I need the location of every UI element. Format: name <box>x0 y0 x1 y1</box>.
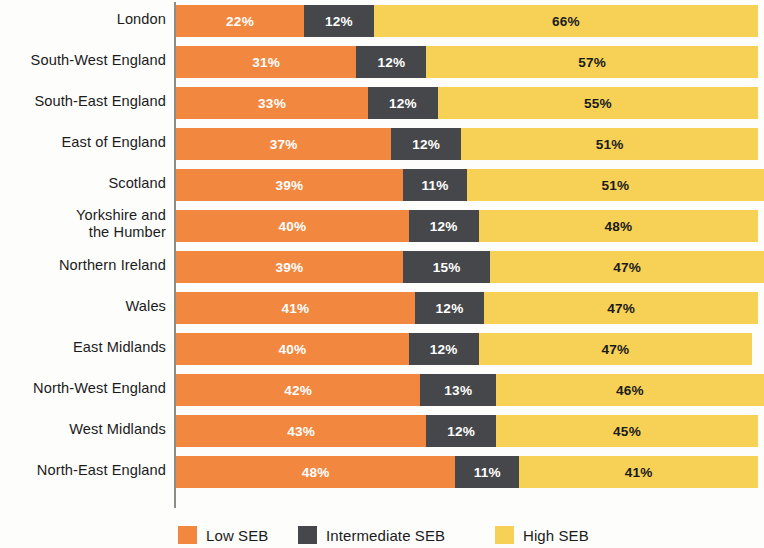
segment-value-label: 48% <box>302 465 330 480</box>
legend-item-low[interactable]: Low SEB <box>178 524 268 546</box>
bar-segment-low: 39% <box>176 251 403 283</box>
stacked-bar: 41%12%47% <box>176 292 758 324</box>
segment-value-label: 11% <box>421 178 448 193</box>
stacked-bar: 31%12%57% <box>176 46 758 78</box>
bar-segment-mid: 12% <box>304 5 374 37</box>
segment-value-label: 47% <box>607 301 635 316</box>
bar-segment-mid: 15% <box>403 251 490 283</box>
bar-segment-low: 40% <box>176 333 409 365</box>
segment-value-label: 13% <box>444 383 472 398</box>
segment-value-label: 39% <box>276 260 304 275</box>
bar-segment-low: 40% <box>176 210 409 242</box>
segment-value-label: 37% <box>270 137 298 152</box>
legend-swatch-icon <box>298 526 317 544</box>
segment-value-label: 41% <box>625 465 653 480</box>
segment-value-label: 43% <box>287 424 315 439</box>
bar-segment-high: 41% <box>519 456 758 488</box>
segment-value-label: 12% <box>430 342 458 357</box>
stacked-bar: 40%12%48% <box>176 210 758 242</box>
legend-swatch-icon <box>495 526 514 544</box>
segment-value-label: 31% <box>252 55 280 70</box>
legend-item-mid[interactable]: Intermediate SEB <box>298 524 445 546</box>
bar-row: Northern Ireland39%15%47% <box>0 251 758 283</box>
bar-segment-high: 66% <box>374 5 758 37</box>
category-label: London <box>0 11 166 28</box>
stacked-bar: 33%12%55% <box>176 87 758 119</box>
bar-row: North-West England42%13%46% <box>0 374 758 406</box>
category-label: East of England <box>0 134 166 151</box>
category-label: Scotland <box>0 175 166 192</box>
legend-label: High SEB <box>523 527 589 544</box>
segment-value-label: 47% <box>613 260 641 275</box>
legend-label: Low SEB <box>206 527 268 544</box>
segment-value-label: 22% <box>226 14 254 29</box>
bar-segment-mid: 12% <box>426 415 496 447</box>
segment-value-label: 66% <box>552 14 580 29</box>
segment-value-label: 12% <box>447 424 475 439</box>
segment-value-label: 12% <box>412 137 440 152</box>
segment-value-label: 57% <box>578 55 606 70</box>
bar-segment-low: 33% <box>176 87 368 119</box>
segment-value-label: 46% <box>616 383 644 398</box>
category-label: Yorkshire and the Humber <box>0 207 166 240</box>
stacked-bar: 22%12%66% <box>176 5 758 37</box>
bar-segment-mid: 11% <box>403 169 467 201</box>
bar-segment-high: 47% <box>490 251 764 283</box>
stacked-bar: 39%15%47% <box>176 251 758 283</box>
bar-segment-mid: 12% <box>409 210 479 242</box>
segment-value-label: 12% <box>377 55 405 70</box>
bar-segment-mid: 12% <box>356 46 426 78</box>
stacked-bar: 43%12%45% <box>176 415 758 447</box>
bar-segment-high: 48% <box>479 210 758 242</box>
bar-segment-mid: 12% <box>409 333 479 365</box>
segment-value-label: 39% <box>276 178 304 193</box>
segment-value-label: 11% <box>474 465 501 480</box>
category-label: West Midlands <box>0 421 166 438</box>
stacked-bar: 39%11%51% <box>176 169 758 201</box>
category-label: East Midlands <box>0 339 166 356</box>
segment-value-label: 42% <box>284 383 312 398</box>
bar-segment-low: 48% <box>176 456 455 488</box>
bar-row: Scotland39%11%51% <box>0 169 758 201</box>
segment-value-label: 12% <box>436 301 464 316</box>
category-label: South-East England <box>0 93 166 110</box>
bar-segment-low: 42% <box>176 374 420 406</box>
category-label: North-East England <box>0 462 166 479</box>
plot-area: London22%12%66%South-West England31%12%5… <box>0 0 758 512</box>
bar-row: South-East England33%12%55% <box>0 87 758 119</box>
segment-value-label: 47% <box>601 342 629 357</box>
segment-value-label: 15% <box>433 260 461 275</box>
legend-swatch-icon <box>178 526 197 544</box>
stacked-bar: 42%13%46% <box>176 374 758 406</box>
bar-segment-high: 51% <box>461 128 758 160</box>
bar-segment-mid: 12% <box>368 87 438 119</box>
category-label: Northern Ireland <box>0 257 166 274</box>
category-label: North-West England <box>0 380 166 397</box>
segment-value-label: 55% <box>584 96 612 111</box>
segment-value-label: 33% <box>258 96 286 111</box>
chart-legend: Low SEBIntermediate SEBHigh SEB <box>0 524 758 548</box>
bar-segment-low: 39% <box>176 169 403 201</box>
bar-segment-low: 43% <box>176 415 426 447</box>
legend-item-high[interactable]: High SEB <box>495 524 589 546</box>
segment-value-label: 12% <box>389 96 417 111</box>
segment-value-label: 51% <box>596 137 624 152</box>
bar-segment-mid: 12% <box>391 128 461 160</box>
bar-segment-low: 41% <box>176 292 415 324</box>
bar-row: East of England37%12%51% <box>0 128 758 160</box>
bar-row: Yorkshire and the Humber40%12%48% <box>0 210 758 242</box>
bar-row: Wales41%12%47% <box>0 292 758 324</box>
bar-row: North-East England48%11%41% <box>0 456 758 488</box>
legend-label: Intermediate SEB <box>326 527 445 544</box>
category-label: South-West England <box>0 52 166 69</box>
segment-value-label: 51% <box>601 178 629 193</box>
bar-segment-high: 57% <box>426 46 758 78</box>
bar-segment-high: 45% <box>496 415 758 447</box>
bar-row: London22%12%66% <box>0 5 758 37</box>
bar-segment-low: 31% <box>176 46 356 78</box>
bar-segment-mid: 13% <box>420 374 496 406</box>
segment-value-label: 40% <box>278 219 306 234</box>
segment-value-label: 48% <box>604 219 632 234</box>
bar-segment-high: 55% <box>438 87 758 119</box>
